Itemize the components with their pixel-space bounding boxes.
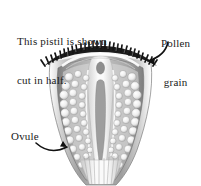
label-pollen-grain: Pollen grain — [161, 11, 190, 115]
caption-line-1: This pistil is shown — [17, 35, 107, 48]
caption-line-2: cut in half. — [17, 74, 107, 87]
label-pollen-line-1: Pollen — [161, 37, 190, 50]
label-ovule: Ovule — [11, 130, 39, 143]
label-pollen-line-2: grain — [161, 76, 190, 89]
ovule-arrow — [36, 141, 67, 150]
figure-canvas: This pistil is shown cut in half. Pollen… — [0, 0, 201, 186]
caption-pistil-cut: This pistil is shown cut in half. — [17, 9, 107, 113]
